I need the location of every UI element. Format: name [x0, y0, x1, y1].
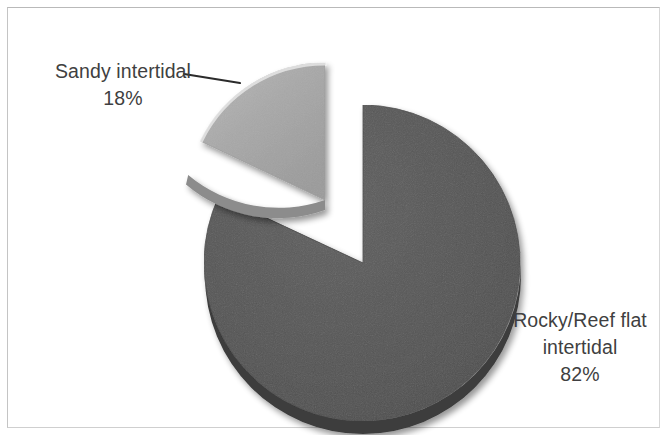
slice-label-sandy-name: Sandy intertidal — [14, 58, 232, 85]
slice-label-rocky-name-line-2: intertidal — [494, 334, 666, 361]
slice-label-rocky-name-line-1: Rocky/Reef flat — [494, 307, 666, 334]
slice-label-sandy-percent: 18% — [14, 85, 232, 112]
plot-area: Sandy intertidal 18% Rocky/Reef flat int… — [0, 0, 671, 435]
pie-chart-figure: Sandy intertidal 18% Rocky/Reef flat int… — [0, 0, 671, 435]
slice-label-rocky-percent: 82% — [494, 361, 666, 388]
slice-label-sandy-intertidal: Sandy intertidal 18% — [14, 58, 232, 112]
slice-label-rocky-reef-flat-intertidal: Rocky/Reef flat intertidal 82% — [494, 307, 666, 388]
